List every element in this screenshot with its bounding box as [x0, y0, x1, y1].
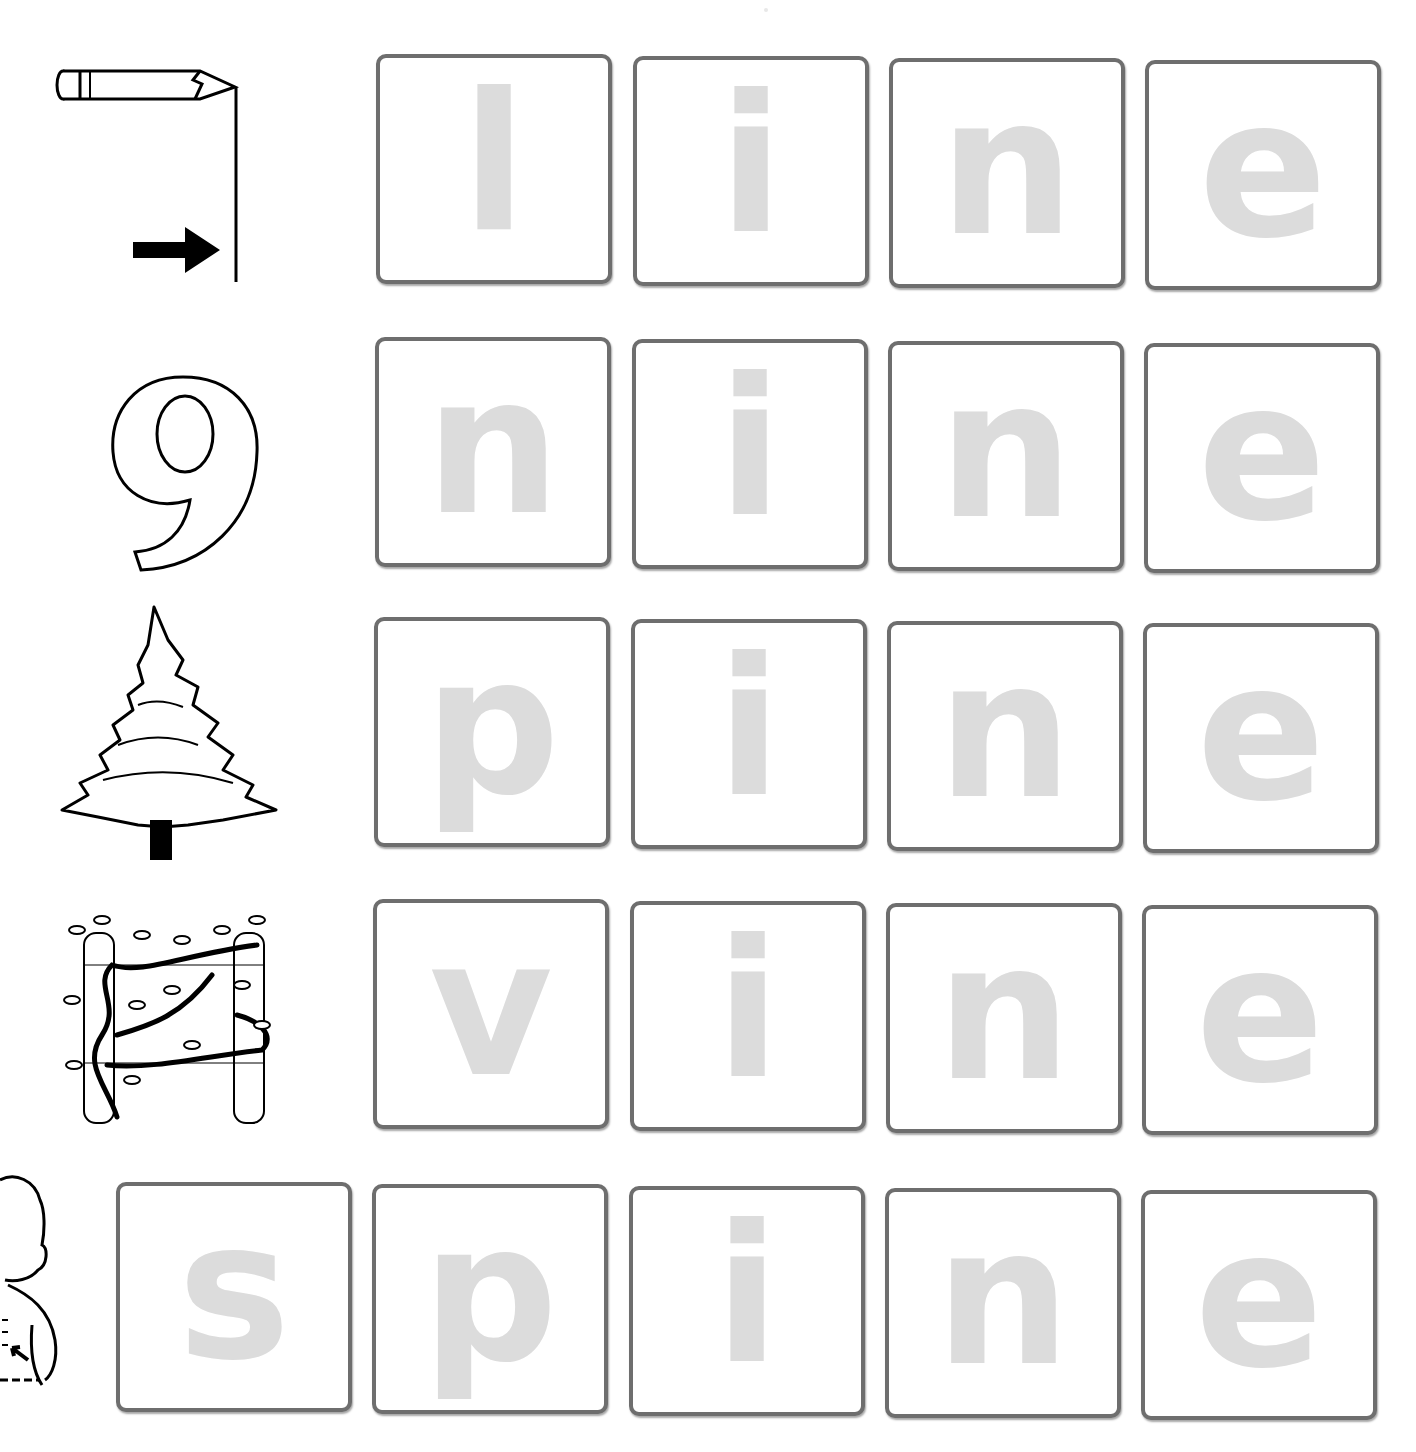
letter-tile[interactable]: v [373, 899, 609, 1129]
boy-spine-icon [0, 1170, 65, 1395]
tile-letter: i [717, 354, 782, 544]
tile-letter: n [937, 636, 1072, 826]
letter-tile[interactable]: i [632, 339, 868, 569]
tile-letter: p [424, 632, 560, 822]
tile-letter: n [939, 73, 1074, 263]
tile-letter: i [715, 916, 780, 1106]
letter-tile[interactable]: n [886, 903, 1122, 1133]
letter-tile[interactable]: i [630, 901, 866, 1131]
tile-letter: n [938, 356, 1073, 546]
vine-on-posts-icon [62, 905, 277, 1127]
letter-tile[interactable]: e [1142, 905, 1378, 1135]
letter-tile[interactable]: e [1141, 1190, 1377, 1420]
print-speck [764, 8, 768, 12]
letter-tile[interactable]: n [889, 58, 1125, 288]
letter-tile[interactable]: p [374, 617, 610, 847]
tile-letter: e [1199, 75, 1328, 265]
tile-letter: v [429, 914, 553, 1104]
tile-letter: e [1197, 638, 1326, 828]
tile-letter: e [1195, 1205, 1324, 1395]
tile-letter: i [714, 1201, 779, 1391]
letter-tile[interactable]: e [1145, 60, 1381, 290]
tile-letter: e [1196, 920, 1325, 1110]
number-nine-icon [105, 372, 265, 577]
letter-tile[interactable]: e [1144, 343, 1380, 573]
tile-letter: e [1198, 358, 1327, 548]
letter-tile[interactable]: l [376, 54, 612, 284]
letter-tile[interactable]: p [372, 1184, 608, 1414]
tile-letter: l [461, 69, 526, 259]
tile-letter: n [935, 1203, 1070, 1393]
letter-tile[interactable]: i [631, 619, 867, 849]
letter-tile[interactable]: n [375, 337, 611, 567]
tile-letter: s [177, 1197, 290, 1387]
pencil-line-arrow-icon [50, 60, 250, 290]
letter-tile[interactable]: e [1143, 623, 1379, 853]
tile-letter: n [936, 918, 1071, 1108]
letter-tile[interactable]: i [629, 1186, 865, 1416]
pine-tree-icon [58, 605, 280, 863]
tile-letter: n [425, 352, 560, 542]
letter-tile[interactable]: n [888, 341, 1124, 571]
letter-tile[interactable]: n [887, 621, 1123, 851]
letter-tile[interactable]: i [633, 56, 869, 286]
tile-letter: i [718, 71, 783, 261]
tile-letter: p [422, 1199, 558, 1389]
tile-letter: i [716, 634, 781, 824]
letter-tile[interactable]: s [116, 1182, 352, 1412]
letter-tile[interactable]: n [885, 1188, 1121, 1418]
